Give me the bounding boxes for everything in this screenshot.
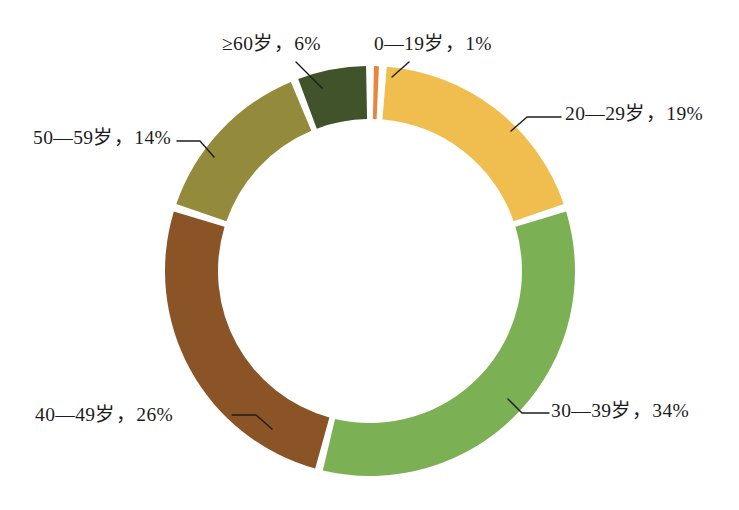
slice-label-20-29: 20—29岁，19% — [565, 103, 703, 125]
donut-chart: 0—19岁，1% 20—29岁，19% 30—39岁，34% 40—49岁，26… — [0, 0, 739, 510]
slice-label-50-59: 50—59岁，14% — [33, 127, 171, 149]
slice-label-0-19: 0—19岁，1% — [374, 33, 492, 55]
donut-slice-4[interactable] — [165, 211, 329, 468]
slice-label-40-49: 40—49岁，26% — [35, 404, 173, 426]
donut-slices-group — [165, 66, 575, 476]
slice-label-30-39: 30—39岁，34% — [551, 400, 689, 422]
leader-line-2 — [511, 117, 561, 131]
slice-label-60-plus: ≥60岁，6% — [222, 33, 321, 55]
donut-slice-3[interactable] — [323, 211, 575, 476]
donut-slice-5[interactable] — [176, 82, 311, 221]
donut-chart-svg — [0, 0, 739, 510]
donut-slice-2[interactable] — [382, 67, 563, 222]
donut-slice-1[interactable] — [373, 66, 379, 119]
